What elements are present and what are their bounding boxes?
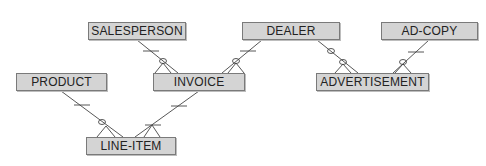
rel-invoice-lineitem — [135, 91, 199, 137]
entity-advertisement: ADVERTISEMENT — [316, 73, 429, 91]
rel-product-lineitem — [61, 91, 123, 137]
entity-ad-copy: AD-COPY — [381, 22, 478, 40]
entity-line-item: LINE-ITEM — [86, 137, 176, 155]
rel-adcopy-advertisement — [393, 40, 429, 73]
crows-foot-icon — [97, 126, 106, 137]
entity-dealer: DEALER — [242, 22, 340, 40]
crows-foot-icon — [395, 64, 403, 73]
zero-circle-icon — [340, 60, 347, 65]
entity-product: PRODUCT — [16, 73, 107, 91]
rel-dealer-advertisement — [317, 40, 358, 73]
rel-dealer-invoice — [222, 40, 262, 73]
crows-foot-icon — [335, 64, 343, 73]
entity-invoice: INVOICE — [153, 73, 245, 91]
zero-circle-icon — [99, 120, 106, 125]
entity-salesperson: SALESPERSON — [88, 22, 186, 40]
crows-foot-icon — [144, 125, 152, 137]
crows-foot-icon — [155, 63, 163, 73]
rel-salesperson-invoice — [137, 40, 178, 73]
